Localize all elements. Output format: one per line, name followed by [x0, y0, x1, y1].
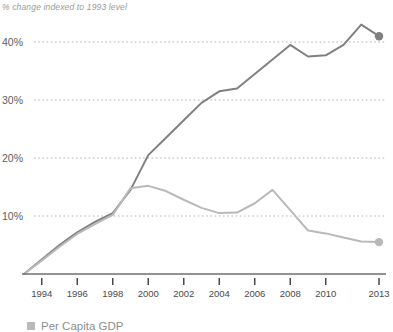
x-axis-tick-label: 2010 [315, 288, 336, 299]
series-group [24, 25, 383, 274]
y-axis-tick-label: 10% [2, 210, 23, 222]
legend-swatch-icon [27, 322, 35, 330]
series-line-light-series [24, 186, 379, 274]
series-line-dark-series [24, 25, 379, 274]
series-endpoint-marker-dark-series [375, 32, 383, 40]
chart-legend: Per Capita GDP [27, 320, 123, 332]
x-axis-tick-label: 2008 [280, 288, 301, 299]
x-axis-tick-label: 2006 [244, 288, 265, 299]
x-axis-tick-label: 1998 [102, 288, 123, 299]
y-axis-tick-label: 40% [2, 36, 23, 48]
x-axis-tick-label: 1996 [67, 288, 88, 299]
series-endpoint-marker-light-series [375, 238, 383, 246]
x-axis-tick-label: 2004 [209, 288, 230, 299]
x-axis-tick-label: 2002 [173, 288, 194, 299]
x-axis-tick-label: 2000 [138, 288, 159, 299]
y-axis-tick-label: 30% [2, 94, 23, 106]
x-axis-tick-label: 1994 [31, 288, 52, 299]
legend-label-per-capita-gdp: Per Capita GDP [41, 320, 123, 332]
gridlines-group [34, 42, 386, 216]
x-axis-tick-label: 2013 [368, 288, 389, 299]
x-axis-labels-group: 1994199619982000200220042006200820102013 [31, 288, 389, 299]
y-axis-tick-label: 20% [2, 152, 23, 164]
x-axis-group [22, 274, 386, 285]
y-axis-labels-group: 10%20%30%40% [2, 36, 23, 222]
